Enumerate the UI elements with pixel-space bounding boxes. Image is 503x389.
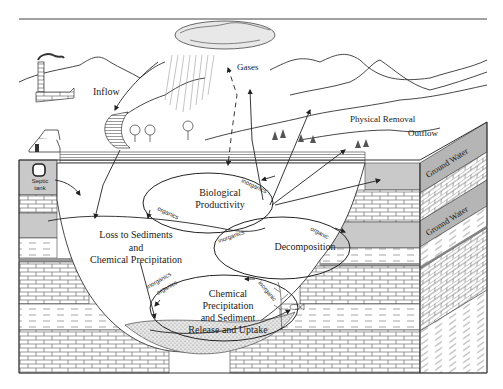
decomposition-label: Decomposition — [274, 241, 335, 252]
biological-productivity-label-2: Productivity — [195, 199, 244, 210]
loss-to-sediments-label-1: Loss to Sediments — [99, 229, 172, 240]
rain-lines — [165, 55, 214, 112]
chemical-precipitation-label-1: Chemical — [209, 288, 248, 299]
lake-cycle-diagram: Septic tank Inflow Gases Physical Remova… — [0, 0, 503, 389]
lake-surface — [60, 152, 365, 163]
loss-to-sediments-label-2: and — [129, 242, 143, 253]
factory-icon — [36, 54, 74, 102]
house-icon — [29, 130, 60, 152]
chemical-precipitation-label-2: Precipitation — [202, 300, 253, 311]
chemical-precipitation-label-3: and Sediment — [201, 312, 256, 323]
rain-cloud-icon — [175, 21, 275, 49]
septic-tank-icon — [33, 164, 45, 176]
physical-removal-label: Physical Removal — [350, 114, 416, 124]
chemical-precipitation-label-4: Release and Uptake — [188, 324, 268, 335]
trees — [130, 121, 193, 142]
outflow-label: Outflow — [408, 128, 438, 138]
biological-productivity-label-1: Biological — [199, 187, 241, 198]
gases-label: Gases — [237, 62, 259, 72]
loss-to-sediments-label-3: Chemical Precipitation — [90, 254, 182, 265]
septic-tank-label-1: Septic — [32, 178, 49, 184]
septic-tank-label-2: tank — [34, 185, 46, 191]
inflow-stream — [105, 112, 130, 148]
inflow-label: Inflow — [93, 86, 120, 97]
